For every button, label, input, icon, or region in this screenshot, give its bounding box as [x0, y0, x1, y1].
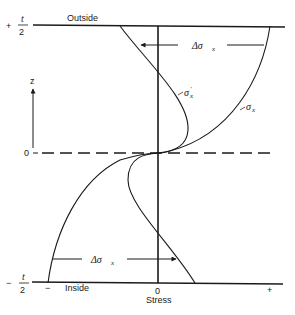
- top-z-numerator: t: [21, 13, 24, 24]
- delta-sigma-bottom-label: Δσ: [90, 254, 103, 265]
- top-z-denominator: 2: [19, 27, 24, 37]
- delta-sigma-top-subscript: x: [211, 45, 216, 53]
- top-boundary-line: [33, 25, 285, 27]
- sigma-x-subscript: x: [251, 106, 256, 114]
- sigma-x-prime-leader: [178, 92, 183, 95]
- inside-label: Inside: [65, 283, 89, 293]
- sigma-x-prime-subscript: x: [189, 92, 194, 100]
- stress-axis-title: Stress: [146, 295, 172, 305]
- stress-negative-label: −: [45, 283, 50, 293]
- delta-sigma-bottom-subscript: x: [110, 259, 115, 267]
- sigma-x-leader: [240, 107, 245, 110]
- z-origin-label: 0: [24, 148, 29, 158]
- top-z-sign: +: [6, 21, 11, 31]
- bottom-z-numerator: t: [22, 271, 25, 282]
- stress-positive-label: +: [267, 285, 272, 295]
- sigma-x-curve: [48, 26, 270, 283]
- outside-label: Outside: [67, 13, 98, 23]
- bottom-z-sign: −: [6, 278, 11, 288]
- z-axis-label: z: [30, 76, 35, 86]
- stress-diagram: + t 2 Outside − t 2 Inside z 0 − 0 Stres…: [0, 0, 295, 315]
- delta-sigma-top-label: Δσ: [191, 40, 204, 51]
- bottom-z-denominator: 2: [20, 285, 25, 295]
